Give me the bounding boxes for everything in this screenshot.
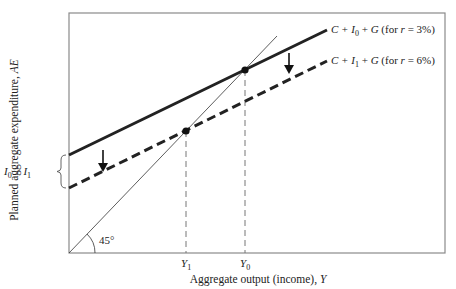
x-tick-y0: Y0 — [240, 257, 250, 272]
angle-label: 45° — [99, 234, 114, 246]
angle-arc — [87, 234, 95, 253]
x-tick-y1: Y1 — [181, 257, 191, 272]
plot-frame — [69, 13, 445, 253]
x-axis-label: Aggregate output (income), Y — [190, 273, 328, 286]
ae-line-r6 — [69, 61, 327, 188]
brace-icon — [57, 155, 66, 188]
ae-line-r3 — [69, 30, 327, 155]
chart: 45° I0 − I1 C + I0 + G (for r = 3%) C + … — [0, 0, 456, 289]
equilibrium-point-y1 — [182, 127, 189, 134]
down-arrow-icon-right — [284, 53, 294, 74]
y-axis-label: Planned aggregate expenditure, AE — [8, 59, 21, 221]
legend-label-r3: C + I0 + G (for r = 3%) — [331, 23, 435, 38]
legend-label-r6: C + I1 + G (for r = 6%) — [331, 54, 435, 69]
equilibrium-point-y0 — [241, 66, 248, 73]
